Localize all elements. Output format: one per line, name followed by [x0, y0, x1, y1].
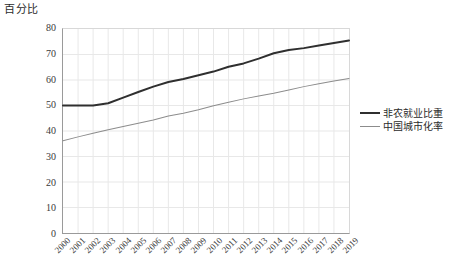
- legend-swatch-icon: [360, 112, 380, 114]
- plot-area: [62, 28, 350, 234]
- y-axis-tick-label: 80: [16, 23, 56, 33]
- y-axis-tick-label: 40: [16, 126, 56, 136]
- legend-item-label: 非农就业比重: [383, 108, 443, 119]
- legend-item-1[interactable]: 中国城市化率: [360, 120, 452, 132]
- y-axis-tick-label: 30: [16, 152, 56, 162]
- legend-swatch-icon: [360, 126, 380, 127]
- y-axis-title: 百分比: [4, 3, 39, 15]
- y-axis-tick-label: 10: [16, 203, 56, 213]
- y-axis-tick-label: 0: [16, 229, 56, 239]
- legend-item-label: 中国城市化率: [383, 121, 443, 132]
- y-axis-tick-label: 50: [16, 100, 56, 110]
- series-line-1: [63, 78, 349, 140]
- legend-item-0[interactable]: 非农就业比重: [360, 107, 452, 119]
- series-line-0: [63, 40, 349, 105]
- y-axis-tick-label: 60: [16, 75, 56, 85]
- line-chart: 百分比 01020304050607080 200020012002200320…: [0, 0, 452, 265]
- series-lines: [63, 29, 349, 233]
- chart-legend: 非农就业比重 中国城市化率: [360, 107, 452, 133]
- y-axis-tick-label: 20: [16, 178, 56, 188]
- y-axis-tick-label: 70: [16, 49, 56, 59]
